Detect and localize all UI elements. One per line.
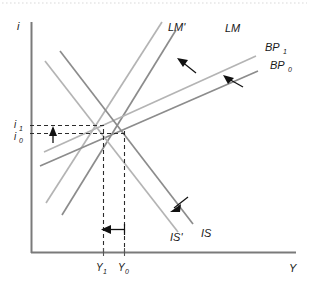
curve-label-bp1-subscript: 1: [283, 48, 287, 55]
curve-is-prime: [45, 61, 178, 232]
output-fall-arrow-icon: [101, 224, 125, 235]
tick-label-y0-group: Y 0: [118, 262, 129, 275]
tick-label-i1-subscript: 1: [19, 125, 23, 132]
curves-group: [40, 22, 258, 232]
curve-label-is: IS: [201, 227, 212, 239]
curve-bp0: [40, 71, 258, 166]
curve-label-bp0-group: BP 0: [270, 59, 292, 73]
tick-label-i0: i: [14, 131, 17, 142]
x-axis-label: Y: [289, 262, 297, 274]
curve-label-lm-prime: LM': [168, 21, 186, 33]
tick-label-i0-group: i 0: [14, 131, 23, 144]
lm-shift-arrow-icon: [177, 58, 196, 73]
curve-label-bp1: BP: [265, 41, 280, 53]
tick-label-y1-subscript: 1: [103, 268, 107, 275]
curve-label-bp1-group: BP 1: [265, 41, 287, 55]
curve-label-bp0-subscript: 0: [288, 66, 292, 73]
curve-lm: [62, 30, 176, 215]
tick-label-i0-subscript: 0: [19, 137, 23, 144]
islm-bp-diagram: i Y LM' LM BP 1 BP 0 IS' IS i 1 i 0 Y 1: [0, 0, 309, 286]
interest-rise-arrow-icon: [49, 126, 57, 143]
tick-label-y1-group: Y 1: [96, 262, 107, 275]
shift-arrows-group: [49, 58, 243, 235]
curve-label-bp0: BP: [270, 59, 285, 71]
curve-label-is-prime: IS': [170, 231, 183, 243]
figure-root: i Y LM' LM BP 1 BP 0 IS' IS i 1 i 0 Y 1: [0, 0, 309, 286]
is-shift-arrow-icon: [170, 197, 188, 212]
tick-label-y0-subscript: 0: [125, 268, 129, 275]
tick-label-i1: i: [14, 119, 17, 130]
curve-label-lm: LM: [225, 22, 241, 34]
curve-lm-prime: [46, 22, 162, 203]
y-axis-label: i: [17, 20, 20, 32]
